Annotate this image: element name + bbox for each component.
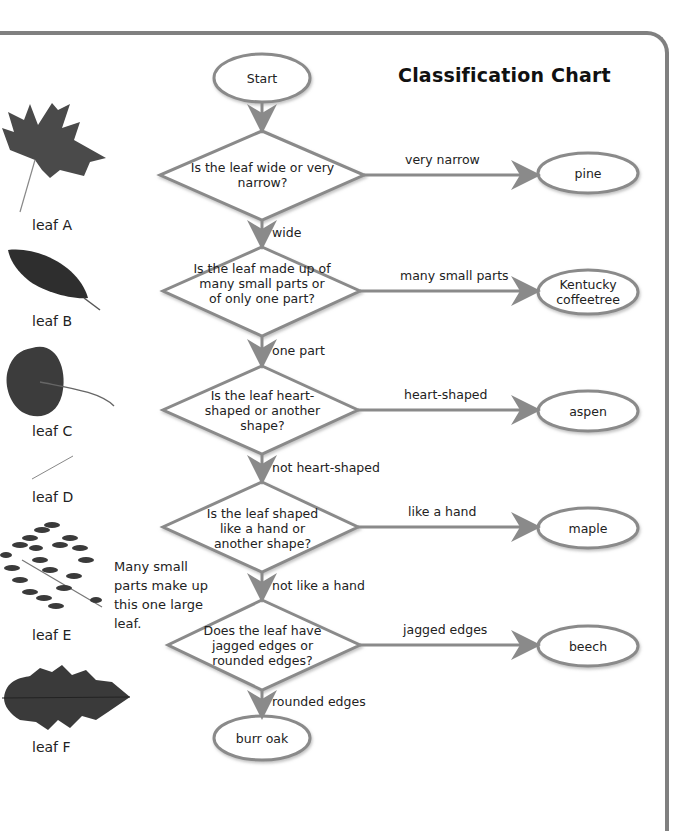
leaf-e-illustration bbox=[0, 522, 102, 609]
result-burr-oak: burr oak bbox=[214, 730, 310, 746]
edge-label-not-heart-shaped: not heart-shaped bbox=[272, 460, 380, 475]
edge-label-jagged-edges: jagged edges bbox=[403, 622, 487, 637]
leaf-b-label: leaf B bbox=[32, 313, 72, 329]
result-maple: maple bbox=[540, 520, 636, 536]
edge-label-very-narrow: very narrow bbox=[405, 152, 480, 167]
leaf-b-illustration bbox=[8, 250, 100, 310]
edge-label-rounded-edges: rounded edges bbox=[272, 694, 366, 709]
leaf-c-label: leaf C bbox=[32, 423, 72, 439]
edge-label-many-small-parts: many small parts bbox=[400, 268, 509, 283]
leaf-d-illustration bbox=[32, 456, 73, 479]
question-5: Does the leaf have jagged edges or round… bbox=[200, 623, 325, 668]
result-pine: pine bbox=[540, 165, 636, 181]
edge-label-one-part: one part bbox=[272, 343, 325, 358]
leaf-c-illustration bbox=[7, 347, 114, 417]
leaf-a-label: leaf A bbox=[32, 217, 72, 233]
start-node: Start bbox=[214, 70, 310, 86]
question-1: Is the leaf wide or very narrow? bbox=[190, 160, 335, 190]
edge-label-heart-shaped: heart-shaped bbox=[404, 387, 487, 402]
leaf-f-illustration bbox=[2, 665, 130, 730]
question-2: Is the leaf made up of many small parts … bbox=[192, 261, 332, 306]
result-aspen: aspen bbox=[540, 403, 636, 419]
edge-label-like-a-hand: like a hand bbox=[408, 504, 476, 519]
edge-label-wide: wide bbox=[272, 225, 301, 240]
leaf-e-label: leaf E bbox=[32, 627, 71, 643]
leaf-f-label: leaf F bbox=[32, 739, 71, 755]
leaf-a-illustration bbox=[2, 103, 106, 212]
result-kentucky-coffeetree: Kentucky coffeetree bbox=[548, 277, 628, 307]
chart-title: Classification Chart bbox=[398, 64, 611, 86]
leaf-d-label: leaf D bbox=[32, 489, 73, 505]
edge-label-not-like-a-hand: not like a hand bbox=[272, 578, 365, 593]
question-3: Is the leaf heart-shaped or another shap… bbox=[200, 388, 325, 433]
result-beech: beech bbox=[540, 638, 636, 654]
question-4: Is the leaf shaped like a hand or anothe… bbox=[200, 506, 325, 551]
leaf-e-note: Many small parts make up this one large … bbox=[114, 557, 214, 633]
